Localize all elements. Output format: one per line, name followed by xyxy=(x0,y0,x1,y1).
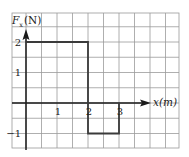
grid-border xyxy=(12,13,179,148)
y-tick-label: 2 xyxy=(15,37,21,48)
force-position-chart: Fx(N) x(m) 123 21−1 xyxy=(0,0,189,157)
y-tick-label: −1 xyxy=(6,128,21,139)
axes xyxy=(12,29,151,150)
x-tick-labels: 123 xyxy=(55,106,123,117)
grid xyxy=(12,13,179,148)
x-tick-label: 1 xyxy=(55,106,61,117)
x-tick-label: 3 xyxy=(117,106,123,117)
labels: Fx(N) x(m) 123 21−1 xyxy=(6,14,177,139)
x-axis-label: x(m) xyxy=(153,96,177,108)
y-tick-label: 1 xyxy=(15,67,21,78)
x-tick-label: 2 xyxy=(86,106,92,117)
